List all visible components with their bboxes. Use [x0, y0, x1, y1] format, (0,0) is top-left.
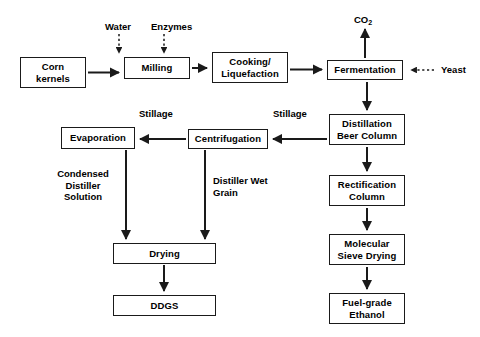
- node-cooking-line1: Cooking/: [221, 56, 279, 68]
- label-cds-line1: Condensed: [57, 168, 109, 179]
- label-yeast: Yeast: [441, 64, 466, 76]
- node-milling[interactable]: Milling: [124, 57, 190, 79]
- node-distillation-line1: Distillation: [337, 118, 397, 130]
- node-centrifugation-label: Centrifugation: [195, 133, 261, 145]
- node-fuel-grade-ethanol[interactable]: Fuel-grade Ethanol: [329, 293, 405, 324]
- node-cooking-line2: Liquefaction: [221, 68, 279, 80]
- label-stillage-right-text: Stillage: [273, 108, 307, 119]
- node-cooking-liquefaction[interactable]: Cooking/ Liquefaction: [212, 52, 288, 83]
- label-yeast-text: Yeast: [441, 64, 466, 75]
- node-drying-label: Drying: [149, 248, 180, 260]
- node-sieve-line1: Molecular: [338, 238, 397, 250]
- node-rectification-column[interactable]: Rectification Column: [329, 175, 405, 206]
- node-rectification-line2: Column: [338, 191, 396, 203]
- label-cds-line3: Solution: [64, 191, 102, 202]
- label-stillage-left-text: Stillage: [139, 108, 173, 119]
- node-milling-label: Milling: [142, 62, 173, 74]
- label-distiller-wet-grain: Distiller Wet Grain: [213, 175, 283, 198]
- node-ddgs-label: DDGS: [151, 300, 179, 312]
- label-dwg-line1: Distiller: [213, 175, 248, 186]
- node-centrifugation[interactable]: Centrifugation: [188, 129, 268, 149]
- label-co2-text: CO: [354, 14, 368, 25]
- label-enzymes-text: Enzymes: [151, 21, 192, 32]
- label-cds-line2: Distiller: [66, 180, 101, 191]
- label-stillage-left: Stillage: [139, 108, 173, 120]
- node-corn-kernels-line1: Corn: [36, 61, 70, 73]
- node-ethanol-line2: Ethanol: [342, 309, 392, 321]
- label-condensed-distiller-solution: Condensed Distiller Solution: [47, 168, 119, 203]
- node-fermentation[interactable]: Fermentation: [327, 60, 403, 80]
- label-co2-subscript: 2: [368, 19, 372, 26]
- node-distillation-beer-column[interactable]: Distillation Beer Column: [329, 114, 405, 145]
- node-corn-kernels-line2: kernels: [36, 73, 70, 85]
- node-evaporation[interactable]: Evaporation: [61, 127, 135, 149]
- node-distillation-line2: Beer Column: [337, 130, 397, 142]
- node-evaporation-label: Evaporation: [70, 132, 126, 144]
- node-molecular-sieve-drying[interactable]: Molecular Sieve Drying: [329, 234, 405, 265]
- label-stillage-right: Stillage: [273, 108, 307, 120]
- node-rectification-line1: Rectification: [338, 179, 396, 191]
- label-water-text: Water: [105, 21, 131, 32]
- node-fermentation-label: Fermentation: [334, 64, 395, 76]
- label-co2: CO2: [354, 14, 372, 27]
- label-water: Water: [105, 21, 131, 33]
- process-flow-diagram: Corn kernels Milling Cooking/ Liquefacti…: [0, 0, 480, 337]
- node-drying[interactable]: Drying: [113, 243, 216, 264]
- node-corn-kernels[interactable]: Corn kernels: [20, 57, 86, 88]
- node-ddgs[interactable]: DDGS: [113, 295, 216, 316]
- node-ethanol-line1: Fuel-grade: [342, 297, 392, 309]
- label-enzymes: Enzymes: [151, 21, 192, 33]
- node-sieve-line2: Sieve Drying: [338, 250, 397, 262]
